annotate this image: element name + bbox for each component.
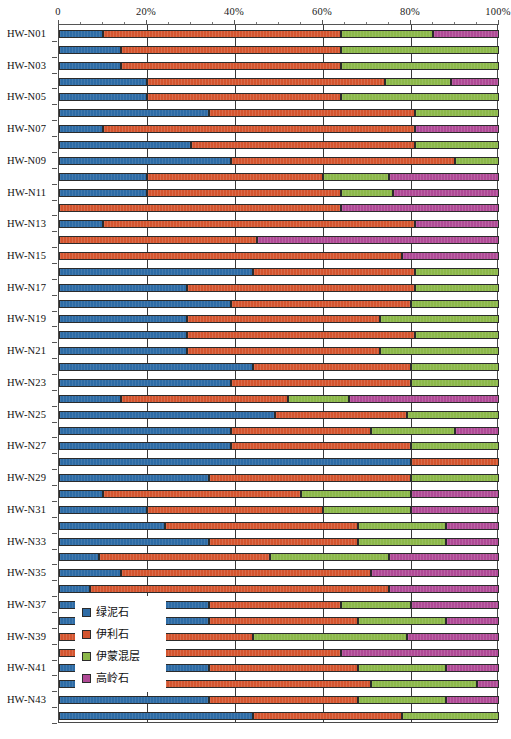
bar-segment[interactable]	[59, 125, 103, 133]
bar-segment[interactable]	[187, 315, 381, 323]
bar-segment[interactable]	[411, 458, 499, 466]
bar-segment[interactable]	[59, 141, 191, 149]
bar-segment[interactable]	[323, 506, 411, 514]
bar-row[interactable]	[59, 157, 497, 165]
bar-row[interactable]	[59, 268, 497, 276]
bar-segment[interactable]	[433, 30, 499, 38]
bar-segment[interactable]	[371, 569, 499, 577]
bar-segment[interactable]	[90, 585, 389, 593]
bar-row[interactable]	[59, 347, 497, 355]
bar-segment[interactable]	[187, 347, 381, 355]
bar-segment[interactable]	[389, 173, 499, 181]
bar-segment[interactable]	[99, 553, 271, 561]
bar-row[interactable]	[59, 458, 497, 466]
bar-segment[interactable]	[231, 157, 455, 165]
bar-row[interactable]	[59, 30, 497, 38]
bar-row[interactable]	[59, 363, 497, 371]
bar-segment[interactable]	[253, 712, 403, 720]
bar-segment[interactable]	[147, 506, 323, 514]
bar-segment[interactable]	[341, 30, 433, 38]
bar-segment[interactable]	[455, 157, 499, 165]
bar-segment[interactable]	[209, 601, 341, 609]
bar-segment[interactable]	[59, 411, 275, 419]
bar-segment[interactable]	[59, 62, 121, 70]
bar-segment[interactable]	[301, 490, 411, 498]
bar-row[interactable]	[59, 46, 497, 54]
bar-segment[interactable]	[446, 696, 499, 704]
bar-segment[interactable]	[415, 220, 499, 228]
bar-segment[interactable]	[121, 46, 341, 54]
bar-segment[interactable]	[59, 204, 341, 212]
bar-segment[interactable]	[341, 62, 499, 70]
bar-segment[interactable]	[389, 585, 499, 593]
bar-segment[interactable]	[288, 395, 350, 403]
bar-row[interactable]	[59, 220, 497, 228]
bar-segment[interactable]	[209, 696, 359, 704]
bar-segment[interactable]	[341, 46, 499, 54]
bar-segment[interactable]	[415, 331, 499, 339]
bar-segment[interactable]	[59, 442, 231, 450]
bar-segment[interactable]	[411, 601, 499, 609]
bar-segment[interactable]	[59, 696, 209, 704]
bar-row[interactable]	[59, 474, 497, 482]
bar-segment[interactable]	[380, 347, 499, 355]
bar-segment[interactable]	[446, 617, 499, 625]
bar-segment[interactable]	[103, 490, 301, 498]
bar-segment[interactable]	[147, 93, 341, 101]
bar-row[interactable]	[59, 173, 497, 181]
bar-segment[interactable]	[59, 538, 209, 546]
bar-segment[interactable]	[341, 601, 411, 609]
bar-row[interactable]	[59, 442, 497, 450]
bar-segment[interactable]	[59, 93, 147, 101]
bar-row[interactable]	[59, 189, 497, 197]
bar-segment[interactable]	[59, 268, 253, 276]
bar-row[interactable]	[59, 204, 497, 212]
bar-row[interactable]	[59, 569, 497, 577]
bar-segment[interactable]	[59, 220, 103, 228]
bar-segment[interactable]	[231, 427, 372, 435]
bar-row[interactable]	[59, 522, 497, 530]
bar-segment[interactable]	[446, 538, 499, 546]
bar-segment[interactable]	[402, 712, 499, 720]
bar-segment[interactable]	[411, 379, 499, 387]
bar-segment[interactable]	[59, 109, 209, 117]
bar-segment[interactable]	[209, 664, 359, 672]
bar-segment[interactable]	[358, 538, 446, 546]
bar-segment[interactable]	[59, 522, 165, 530]
bar-segment[interactable]	[121, 569, 372, 577]
bar-segment[interactable]	[209, 109, 416, 117]
bar-segment[interactable]	[165, 522, 359, 530]
bar-segment[interactable]	[415, 284, 499, 292]
bar-row[interactable]	[59, 395, 497, 403]
bar-segment[interactable]	[393, 189, 499, 197]
bar-segment[interactable]	[59, 506, 147, 514]
bar-segment[interactable]	[59, 173, 147, 181]
bar-segment[interactable]	[59, 427, 231, 435]
bar-segment[interactable]	[411, 442, 499, 450]
bar-segment[interactable]	[59, 30, 103, 38]
bar-segment[interactable]	[358, 522, 446, 530]
bar-segment[interactable]	[402, 252, 499, 260]
bar-segment[interactable]	[59, 331, 187, 339]
bar-segment[interactable]	[59, 490, 103, 498]
bar-row[interactable]	[59, 252, 497, 260]
bar-segment[interactable]	[59, 363, 253, 371]
bar-row[interactable]	[59, 300, 497, 308]
bar-segment[interactable]	[59, 379, 231, 387]
bar-segment[interactable]	[411, 300, 499, 308]
bar-segment[interactable]	[415, 109, 499, 117]
bar-segment[interactable]	[103, 220, 415, 228]
bar-segment[interactable]	[323, 173, 389, 181]
bar-segment[interactable]	[415, 125, 499, 133]
bar-segment[interactable]	[231, 379, 411, 387]
bar-segment[interactable]	[59, 46, 121, 54]
bar-segment[interactable]	[411, 363, 499, 371]
bar-segment[interactable]	[253, 633, 407, 641]
bar-segment[interactable]	[103, 125, 415, 133]
bar-segment[interactable]	[407, 633, 499, 641]
bar-row[interactable]	[59, 331, 497, 339]
bar-segment[interactable]	[231, 442, 411, 450]
bar-row[interactable]	[59, 427, 497, 435]
bar-row[interactable]	[59, 93, 497, 101]
bar-segment[interactable]	[358, 664, 446, 672]
